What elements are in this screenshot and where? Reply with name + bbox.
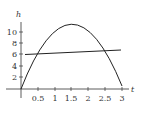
- svg-text:2.5: 2.5: [99, 94, 112, 103]
- svg-text:8: 8: [12, 39, 17, 48]
- parabola-curve: [21, 24, 122, 89]
- svg-text:10: 10: [7, 28, 17, 37]
- svg-text:1: 1: [52, 94, 57, 103]
- svg-text:1.5: 1.5: [65, 94, 78, 103]
- svg-text:2: 2: [85, 94, 90, 103]
- svg-text:4: 4: [12, 62, 17, 71]
- y-ticks: 2 4 6 8 10: [7, 28, 23, 82]
- svg-text:2: 2: [12, 73, 17, 82]
- chart: h t 2 4 6 8 10 0.5 1 1.5 2 2.5 3: [0, 0, 144, 113]
- svg-text:6: 6: [12, 50, 17, 59]
- y-axis-label: h: [16, 10, 21, 19]
- svg-text:0.5: 0.5: [32, 94, 45, 103]
- x-axis-label: t: [131, 85, 135, 94]
- svg-text:3: 3: [119, 94, 124, 103]
